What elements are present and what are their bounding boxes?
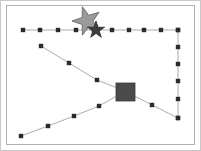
vertex-marker[interactable] — [56, 28, 60, 32]
vertex-marker[interactable] — [74, 28, 78, 32]
vertex-marker[interactable] — [176, 97, 180, 101]
vertex-marker[interactable] — [21, 28, 25, 32]
plot-canvas[interactable] — [0, 0, 201, 151]
vertex-marker[interactable] — [46, 124, 50, 128]
vertex-marker[interactable] — [176, 62, 180, 66]
vertex-marker[interactable] — [19, 134, 23, 138]
canvas-frame — [0, 0, 201, 151]
vertex-marker[interactable] — [38, 28, 42, 32]
vertex-marker[interactable] — [127, 28, 131, 32]
vertex-marker[interactable] — [39, 44, 43, 48]
vertex-marker[interactable] — [176, 45, 180, 49]
plot-frame — [7, 6, 195, 145]
vertex-marker[interactable] — [176, 79, 180, 83]
diagram-root — [0, 0, 201, 151]
square-marker[interactable] — [116, 83, 135, 101]
vertex-marker[interactable] — [150, 103, 154, 107]
vertex-marker[interactable] — [72, 114, 76, 118]
vertex-marker[interactable] — [110, 28, 114, 32]
vertex-marker[interactable] — [142, 28, 146, 32]
vertex-marker[interactable] — [159, 28, 163, 32]
vertex-marker[interactable] — [67, 61, 71, 65]
vertex-marker[interactable] — [95, 78, 99, 82]
vertex-marker[interactable] — [176, 28, 180, 32]
vertex-marker[interactable] — [97, 104, 101, 108]
vertex-marker[interactable] — [176, 116, 180, 120]
